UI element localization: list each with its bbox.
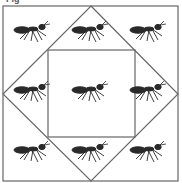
ant-icon — [72, 141, 108, 162]
ants-grid — [14, 21, 166, 162]
ant-square-diagram: Fig — [0, 0, 182, 183]
diagram-canvas — [0, 0, 182, 183]
ant-icon — [14, 81, 50, 102]
ant-icon — [130, 141, 166, 162]
ant-icon — [130, 21, 166, 42]
ant-icon — [14, 21, 50, 42]
ant-icon — [72, 81, 108, 102]
ant-icon — [14, 141, 50, 162]
ant-icon — [72, 21, 108, 42]
